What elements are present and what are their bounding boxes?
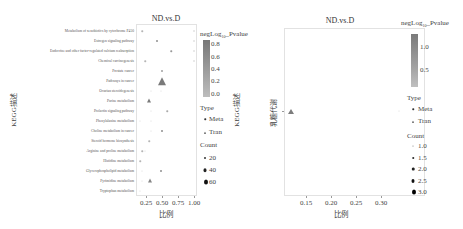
- colorbar-tick: 1.0: [420, 43, 429, 51]
- count-1-5-circle-icon: [412, 157, 414, 159]
- meta-point: [161, 91, 162, 92]
- y-label: Endocrine and other factor-regulated cal…: [50, 49, 134, 53]
- tran-triangle-icon: [412, 121, 414, 123]
- colorbar-tick: 0.8: [211, 40, 220, 48]
- x-tick-label: 1.00: [188, 199, 200, 207]
- count-label: 3.0: [418, 188, 427, 196]
- meta-point: [161, 70, 163, 72]
- colorbar-tick: 0.4: [211, 65, 220, 73]
- count-1-circle-icon: [413, 146, 414, 147]
- meta-point: [151, 91, 152, 92]
- count-3-circle-icon: [412, 190, 416, 195]
- meta-point: [144, 60, 146, 62]
- meta-point: [140, 121, 141, 122]
- right-plot-panel: [284, 28, 425, 196]
- y-label: Ovarian steroidogenesis: [99, 89, 134, 93]
- left-chart-title: ND.vs.D: [152, 14, 180, 23]
- x-tick-label: 0.50: [156, 199, 168, 207]
- meta-point: [160, 170, 162, 172]
- count-legend-title: Count: [200, 141, 217, 149]
- x-tick: [194, 196, 195, 198]
- meta-point: [194, 50, 195, 52]
- meta-point: [142, 171, 143, 172]
- y-label: Estrogen signaling pathway: [94, 39, 134, 43]
- y-label: Phenylalanine metabolism: [96, 119, 134, 123]
- x-tick-label: 0.20: [325, 199, 337, 207]
- count-label: 40: [209, 166, 216, 174]
- type-legend-title: Type: [407, 94, 421, 102]
- count-label: 20: [209, 154, 216, 162]
- x-tick-label: 0.75: [172, 199, 184, 207]
- x-tick-label: 0.30: [375, 199, 387, 207]
- color-legend-title: negLog10_Pvalue: [200, 30, 248, 39]
- count-2-5-circle-icon: [412, 179, 415, 183]
- color-legend-title: negLog10_Pvalue: [401, 19, 449, 28]
- y-label: Glycerophospholipid metabolism: [86, 169, 134, 173]
- meta-point: [399, 111, 400, 112]
- y-label: Choline metabolism in cancer: [91, 129, 134, 133]
- colorbar: [411, 34, 418, 87]
- colorbar-tick: 0.2: [211, 77, 220, 85]
- meta-point: [140, 191, 141, 192]
- tran-triangle-point: [147, 99, 151, 103]
- x-tick: [306, 196, 307, 198]
- type-meta-label: Meta: [209, 115, 223, 123]
- count-2-circle-icon: [412, 168, 415, 171]
- y-label: Histidine metabolism: [103, 159, 134, 163]
- tran-triangle-point: [148, 179, 152, 183]
- colorbar: [203, 40, 210, 97]
- meta-point: [151, 111, 152, 112]
- right-outer-y-axis-title: KEGG描述: [231, 93, 241, 126]
- meta-point: [145, 151, 146, 152]
- meta-point: [151, 121, 152, 122]
- meta-point: [156, 40, 158, 42]
- y-label: Steroid hormone biosynthesis: [91, 139, 134, 143]
- colorbar-tick: 0.5: [420, 66, 429, 74]
- x-tick-label: 0.25: [140, 199, 152, 207]
- meta-point: [142, 181, 143, 182]
- y-label: Prostate cancer: [112, 69, 134, 73]
- meta-point: [151, 131, 152, 132]
- x-tick-label: 0.25: [350, 199, 362, 207]
- meta-point: [194, 30, 195, 32]
- meta-point: [194, 40, 195, 42]
- y-label: Metabolism of xenobiotics by cytochrome …: [65, 29, 134, 33]
- meta-point: [141, 30, 143, 32]
- right-y-category-label: 乳糖代谢: [268, 99, 278, 127]
- tran-triangle-point: [288, 109, 294, 114]
- meta-circle-icon: [204, 118, 206, 120]
- left-x-axis-title: 比例: [159, 208, 173, 219]
- x-tick: [146, 196, 147, 198]
- tran-triangle-point: [158, 77, 166, 85]
- meta-point: [148, 140, 150, 142]
- y-label: Pyrimidine metabolism: [100, 179, 134, 183]
- y-label: Chemical carcinogenesis: [98, 59, 134, 63]
- colorbar-tick: 0.6: [211, 53, 220, 61]
- x-tick-label: 0.15: [300, 199, 312, 207]
- right-chart-title: ND.vs.D: [326, 16, 354, 25]
- meta-point: [194, 60, 195, 62]
- count-label: 1.0: [418, 142, 427, 150]
- meta-circle-icon: [412, 108, 414, 110]
- count-20-circle-icon: [204, 157, 206, 159]
- count-label: 1.5: [418, 154, 427, 162]
- x-tick: [178, 196, 179, 198]
- x-tick: [162, 196, 163, 198]
- count-label: 2.5: [418, 177, 427, 185]
- type-tran-label: Tran: [418, 117, 431, 125]
- count-legend-title: Count: [407, 132, 424, 140]
- count-60-circle-icon: [204, 180, 208, 185]
- meta-point: [139, 160, 141, 162]
- meta-point: [170, 50, 172, 52]
- y-tick: [282, 111, 284, 112]
- x-tick: [381, 196, 382, 198]
- y-label: Arginine and proline metabolism: [86, 149, 134, 153]
- y-label: Purine metabolism: [107, 99, 134, 103]
- type-tran-label: Tran: [209, 128, 222, 136]
- type-legend-title: Type: [200, 104, 214, 112]
- x-tick: [356, 196, 357, 198]
- colorbar-tick: 0.0: [211, 90, 220, 98]
- type-meta-label: Meta: [418, 105, 432, 113]
- y-label: Prolactin signaling pathway: [94, 109, 134, 113]
- meta-point: [161, 130, 163, 132]
